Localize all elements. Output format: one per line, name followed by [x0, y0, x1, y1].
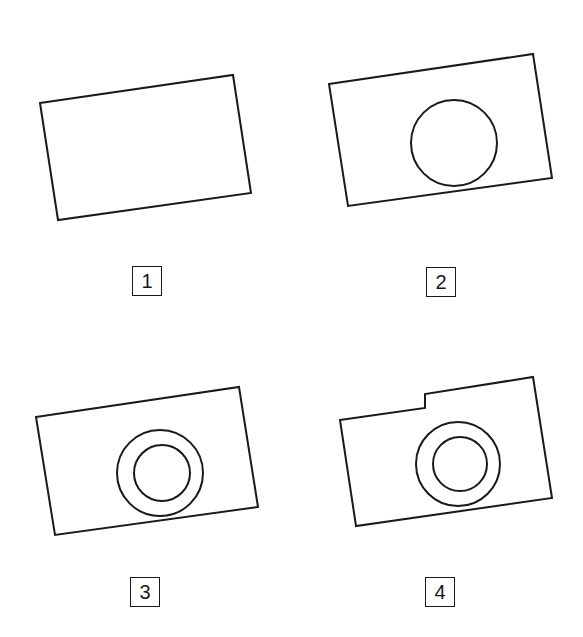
step-2-lens-circle	[411, 100, 497, 186]
drawing-steps-canvas	[0, 0, 583, 637]
step-3-label: 3	[130, 577, 160, 607]
step-4-lens-inner-circle	[433, 437, 487, 491]
step-1-camera-body	[40, 75, 251, 220]
step-2-label: 2	[426, 267, 456, 297]
step-1-drawing	[40, 75, 251, 220]
step-3-drawing	[36, 387, 258, 535]
step-1-label: 1	[132, 266, 162, 296]
step-2-drawing	[329, 54, 552, 206]
step-4-label: 4	[425, 577, 455, 607]
step-4-drawing	[340, 377, 552, 526]
step-3-camera-body	[36, 387, 258, 535]
step-3-lens-inner-circle	[134, 445, 190, 501]
